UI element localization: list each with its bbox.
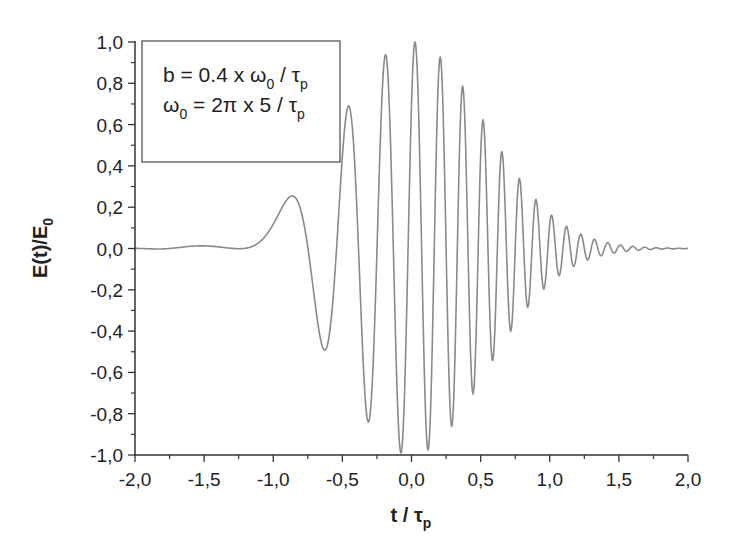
x-tick-label: 1,5 [606,469,632,490]
x-tick-label: 2,0 [675,469,701,490]
chart-canvas: 1,00,80,60,40,20,0-0,2-0,4-0,6-0,8-1,0 -… [0,0,741,560]
x-tick-label: -0,5 [326,469,359,490]
x-tick-label: 1,0 [537,469,563,490]
y-tick-label: -0,4 [90,321,123,342]
x-tick-label: 0,5 [467,469,493,490]
y-tick-label: 0,2 [97,197,123,218]
y-tick-label: 0,4 [97,156,124,177]
y-tick-label: 0,8 [97,73,123,94]
y-tick-label: -0,8 [90,404,123,425]
y-tick-label: -1,0 [90,445,123,466]
x-axis-ticks: -2,0-1,5-1,0-0,50,00,51,01,52,0 [119,455,702,490]
x-tick-label: -1,5 [188,469,221,490]
annotation-box: b = 0.4 x ω0 / τp ω0 = 2π x 5 / τp [142,41,340,162]
x-axis-title: t / τp [391,504,432,531]
y-axis-ticks: 1,00,80,60,40,20,0-0,2-0,4-0,6-0,8-1,0 [90,32,135,466]
x-tick-label: 0,0 [398,469,424,490]
y-tick-label: 1,0 [97,32,123,53]
y-tick-label: -0,6 [90,362,123,383]
y-tick-label: 0,0 [97,239,123,260]
y-tick-label: -0,2 [90,280,123,301]
y-axis-title: E(t)/E0 [29,218,56,278]
y-tick-label: 0,6 [97,115,123,136]
x-tick-label: -1,0 [257,469,290,490]
x-tick-label: -2,0 [119,469,152,490]
